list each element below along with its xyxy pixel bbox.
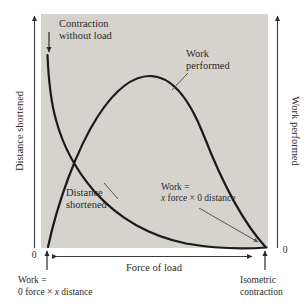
y-right-zero-tick: 0 [283, 245, 288, 255]
plot-area-background [41, 14, 268, 248]
zero-force-work-line1: Work = [18, 275, 47, 285]
isometric-contraction-line2: contraction [240, 287, 283, 297]
contraction-without-load-line1: Contraction [59, 18, 109, 29]
x-axis-label: Force of load [126, 262, 183, 273]
zero-force-work-line2: 0 force × x distance [18, 287, 92, 297]
distance-shortened-label-line2: shortened [66, 199, 108, 210]
isometric-work-line2: x force × 0 distance [160, 193, 235, 203]
zero-force-work-post: distance [59, 287, 93, 297]
isometric-work-line1: Work = [161, 182, 190, 192]
muscle-force-work-figure: 0 0 Contraction without load Work perfor… [0, 0, 307, 307]
y-left-axis-label: Distance shortened [14, 90, 25, 171]
work-performed-label-line2: performed [186, 60, 230, 71]
y-left-zero-tick: 0 [32, 250, 37, 260]
y-right-axis-label: Work performed [290, 96, 301, 166]
isometric-work-rest: force × 0 distance [165, 193, 235, 203]
contraction-without-load-line2: without load [59, 30, 113, 41]
isometric-contraction-line1: Isometric [240, 275, 276, 285]
distance-shortened-label-line1: Distance [66, 187, 103, 198]
work-performed-label-line1: Work [186, 48, 210, 59]
zero-force-work-pre: 0 force × [18, 287, 55, 297]
chart-svg: 0 0 Contraction without load Work perfor… [0, 0, 307, 307]
